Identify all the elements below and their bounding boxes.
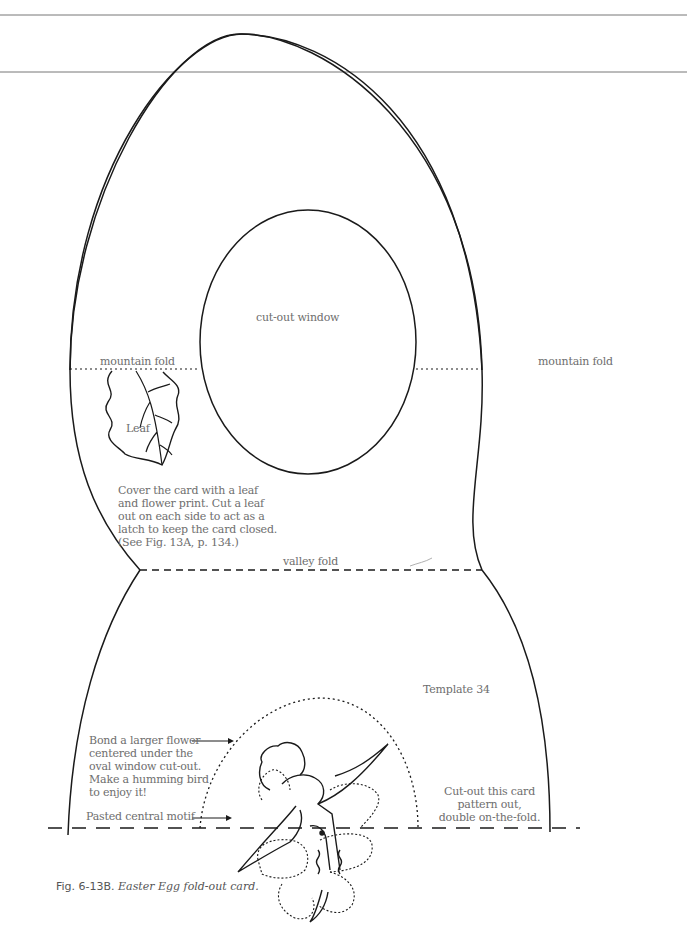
figure-title: Easter Egg fold-out card. bbox=[118, 880, 259, 893]
bond-arrowhead-icon bbox=[228, 738, 234, 744]
template-number-label: Template 34 bbox=[423, 683, 490, 696]
pasted-arrowhead-icon bbox=[226, 815, 232, 821]
leaf-label: Leaf bbox=[126, 422, 150, 435]
flower-placement-arc bbox=[200, 698, 418, 828]
cutout-instructions-text: Cut-out this card pattern out, double on… bbox=[432, 785, 547, 824]
card-template-diagram bbox=[0, 0, 687, 946]
smudge-mark bbox=[410, 558, 432, 566]
flower-outline-icon bbox=[258, 770, 379, 919]
cutout-window-oval bbox=[200, 210, 416, 474]
figure-number: Fig. 6-13B. bbox=[56, 880, 115, 893]
cutout-window-label: cut-out window bbox=[256, 311, 339, 324]
mountain-fold-right-label: mountain fold bbox=[538, 355, 613, 368]
hummingbird-icon bbox=[238, 743, 388, 922]
bond-instructions-text: Bond a larger flower centered under the … bbox=[89, 734, 209, 799]
mountain-fold-left-label: mountain fold bbox=[100, 355, 175, 368]
pasted-motif-label: Pasted central motif bbox=[86, 810, 195, 823]
cover-instructions-text: Cover the card with a leaf and flower pr… bbox=[118, 484, 277, 549]
valley-fold-label: valley fold bbox=[283, 555, 338, 568]
figure-caption: Fig. 6-13B. Easter Egg fold-out card. bbox=[56, 880, 259, 893]
leaf-vein-icon bbox=[136, 371, 172, 465]
